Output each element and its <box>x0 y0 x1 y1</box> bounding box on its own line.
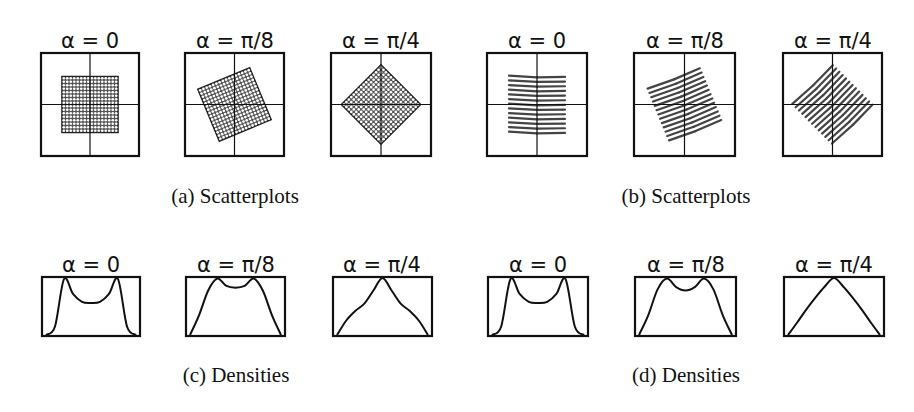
panel-caption: (a) Scatterplots <box>171 184 299 208</box>
scatterplot <box>331 53 431 156</box>
density-plot <box>784 277 884 336</box>
plot-frame <box>635 277 736 336</box>
plot-title: α = π/8 <box>647 253 725 277</box>
panel-c: α = 0 α = π/8 α = π/4 (c) Densities <box>42 253 432 387</box>
plot-title: α = π/8 <box>197 253 275 277</box>
plot-frame <box>333 277 432 336</box>
scatterplot <box>634 53 735 156</box>
scatterplot <box>41 53 139 156</box>
plot-title: α = π/4 <box>795 253 873 277</box>
plot-title: α = 0 <box>61 29 119 53</box>
density-plot <box>42 277 140 336</box>
plot-title: α = π/4 <box>794 29 872 53</box>
scatterplot <box>185 53 284 156</box>
plot-title: α = 0 <box>62 253 120 277</box>
density-curve <box>788 278 880 335</box>
density-curve <box>337 278 428 335</box>
panel-a: α = 0 α = π/8 α = π/4 (a) Scatterplots <box>41 29 431 208</box>
plot-title: α = π/8 <box>646 29 724 53</box>
plot-frame <box>784 277 884 336</box>
plot-title: α = π/4 <box>342 29 420 53</box>
plot-frame <box>186 277 285 336</box>
scatterplot <box>783 53 882 156</box>
density-curve <box>46 278 136 335</box>
panel-caption: (c) Densities <box>183 363 290 387</box>
figure: α = 0 α = π/8 α = π/4 (a) Scatterplots α… <box>0 0 914 412</box>
density-curve <box>492 278 584 335</box>
plot-frame <box>488 277 588 336</box>
panel-b: α = 0 α = π/8 α = π/4 (b) Scatterplots <box>487 29 882 208</box>
plot-title: α = π/8 <box>196 29 274 53</box>
panel-caption: (b) Scatterplots <box>622 184 751 208</box>
plot-frame <box>42 277 140 336</box>
plot-title: α = π/4 <box>343 253 421 277</box>
density-plot <box>186 277 285 336</box>
density-plot <box>488 277 588 336</box>
density-plot <box>333 277 432 336</box>
plot-title: α = 0 <box>509 253 567 277</box>
scatterplot <box>487 53 587 156</box>
panel-d: α = 0 α = π/8 α = π/4 (d) Densities <box>488 253 884 387</box>
panel-caption: (d) Densities <box>632 363 740 387</box>
plot-title: α = 0 <box>508 29 566 53</box>
density-curve <box>639 279 732 335</box>
density-plot <box>635 277 736 336</box>
density-curve <box>190 279 281 335</box>
